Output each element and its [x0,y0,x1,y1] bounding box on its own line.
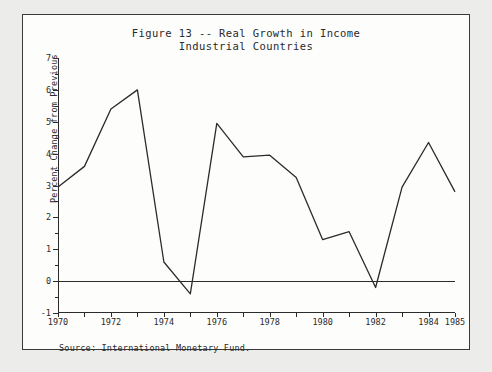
x-tick-label: 1978 [259,317,279,327]
x-tick-label: 1985 [445,317,465,327]
chart-title: Figure 13 -- Real Growth in Income Indus… [23,27,469,53]
x-tick [349,313,350,317]
x-tick-label: 1976 [207,317,227,327]
y-tick-label: 2 [46,212,51,222]
x-tick-label: 1980 [312,317,332,327]
x-tick-label: 1970 [48,317,68,327]
y-tick-label: 1 [46,244,51,254]
x-tick [137,313,138,317]
x-tick-label: 1982 [365,317,385,327]
x-tick [296,313,297,317]
y-tick-label: 6 [46,85,51,95]
x-tick [402,313,403,317]
y-tick-label: 4 [46,149,51,159]
y-tick-label: 0 [46,276,51,286]
x-tick-label: 1972 [101,317,121,327]
x-tick [243,313,244,317]
source-note: Source: International Monetary Fund. [59,343,250,353]
x-tick-label: 1984 [418,317,438,327]
data-series-line [58,58,455,313]
chart-title-line-1: Figure 13 -- Real Growth in Income [23,27,469,40]
plot-area: -101234567 19701972197419761978198019821… [58,58,455,313]
y-tick-label: 3 [46,181,51,191]
y-tick-label: 5 [46,117,51,127]
x-tick [84,313,85,317]
chart-title-line-2: Industrial Countries [23,40,469,53]
y-tick-label: 7 [46,53,51,63]
x-tick [190,313,191,317]
figure-page: Figure 13 -- Real Growth in Income Indus… [0,0,492,372]
x-tick-label: 1974 [154,317,174,327]
